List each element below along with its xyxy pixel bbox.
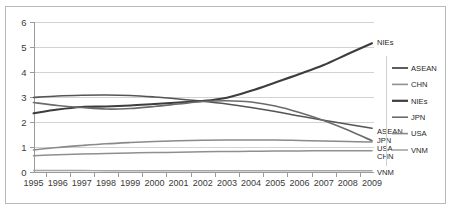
series-line-chn	[34, 151, 373, 156]
series-lines	[34, 43, 373, 171]
legend-label-vnm[interactable]: VNM	[411, 146, 428, 155]
y-tick-label: 3	[21, 92, 26, 103]
series-line-nies	[34, 43, 373, 113]
x-tick-label: 2003	[217, 178, 237, 188]
x-tick-label: 2007	[314, 178, 334, 188]
end-label-vnm: VNM	[377, 168, 394, 177]
end-labels: NIEsASEANJPNUSACHNVNM	[377, 38, 403, 177]
line-chart: 0123456 19951996199719981999200020012002…	[0, 0, 452, 212]
x-tick-label: 2006	[289, 178, 309, 188]
chart-container: 0123456 19951996199719981999200020012002…	[0, 0, 452, 212]
x-tick-label: 2002	[193, 178, 213, 188]
y-axis: 0123456	[21, 17, 34, 178]
x-tick-label: 1995	[23, 178, 43, 188]
series-line-usa	[34, 140, 373, 150]
legend-label-nies[interactable]: NIEs	[411, 97, 428, 106]
legend-label-chn[interactable]: CHN	[411, 80, 427, 89]
gridlines	[34, 23, 375, 173]
x-tick-label: 1997	[72, 178, 92, 188]
end-label-nies: NIEs	[377, 38, 394, 47]
x-tick-label: 2000	[144, 178, 164, 188]
x-tick-label: 2004	[241, 178, 261, 188]
x-tick-label: 2009	[362, 178, 382, 188]
y-tick-label: 4	[21, 67, 26, 78]
legend-label-jpn[interactable]: JPN	[411, 113, 425, 122]
y-tick-label: 5	[21, 42, 26, 53]
y-tick-label: 0	[21, 167, 26, 178]
x-tick-label: 1999	[120, 178, 140, 188]
x-tick-label: 2001	[169, 178, 189, 188]
legend-label-usa[interactable]: USA	[411, 129, 428, 138]
x-tick-label: 2008	[338, 178, 358, 188]
y-tick-label: 1	[21, 142, 26, 153]
legend: ASEANCHNNIEsJPNUSAVNM	[387, 56, 437, 166]
x-tick-label: 1996	[48, 178, 68, 188]
y-tick-label: 2	[21, 117, 26, 128]
y-tick-label: 6	[21, 17, 26, 28]
legend-label-asean[interactable]: ASEAN	[411, 64, 437, 73]
end-label-chn: CHN	[377, 152, 393, 161]
x-tick-label: 2005	[265, 178, 285, 188]
x-tick-label: 1998	[96, 178, 116, 188]
x-axis: 1995199619971998199920002001200220032004…	[23, 173, 382, 188]
